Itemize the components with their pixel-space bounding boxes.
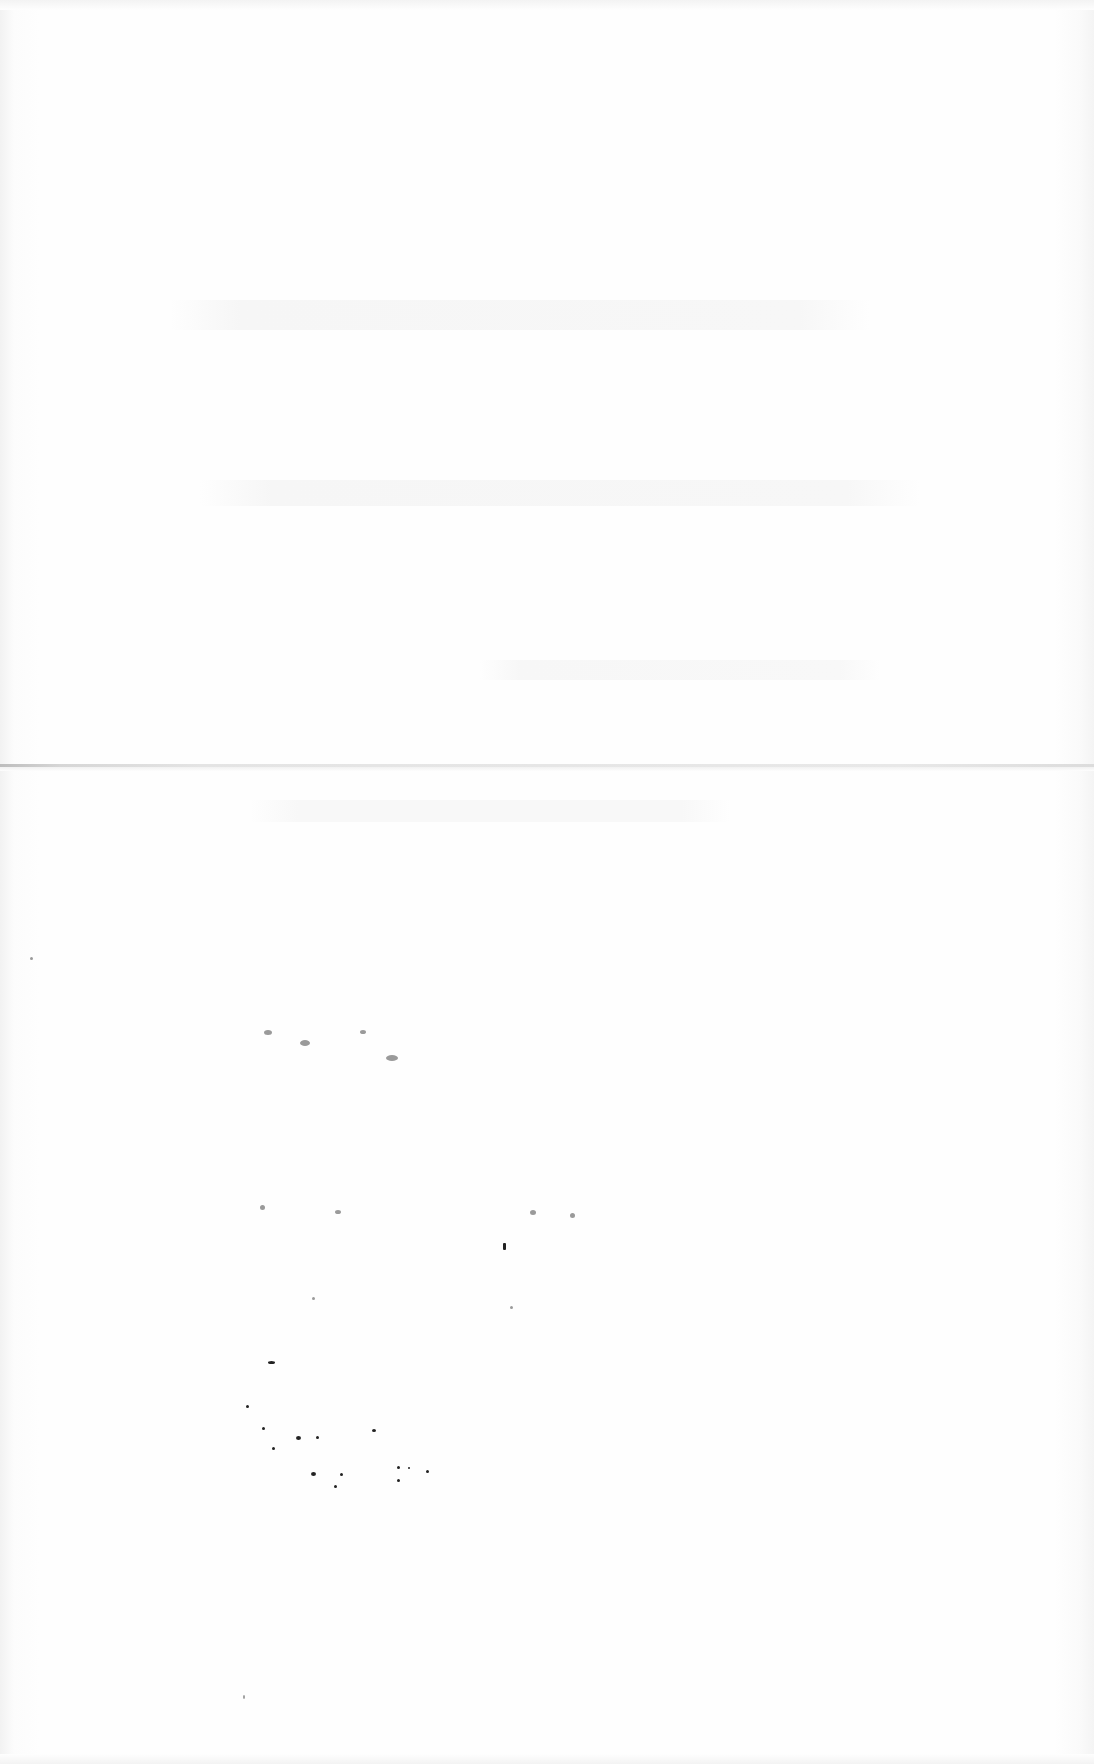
scan-speck [334, 1485, 337, 1488]
scan-speck [300, 1040, 310, 1046]
scan-speck [268, 1361, 275, 1364]
scan-speck [408, 1467, 410, 1469]
scan-speck [312, 1297, 315, 1300]
page-top-edge [0, 0, 1094, 10]
scan-speck [386, 1055, 398, 1061]
scan-speck [397, 1466, 400, 1469]
scan-speck [503, 1243, 506, 1250]
scan-speck [340, 1473, 343, 1476]
scan-speck [426, 1470, 429, 1473]
bleed-through-mark [250, 800, 730, 822]
scan-speck [311, 1472, 316, 1476]
scan-speck [243, 1695, 245, 1699]
bleed-through-mark [480, 660, 880, 680]
scan-speck [510, 1306, 513, 1309]
fold-shadow [0, 767, 1094, 771]
scan-speck [262, 1427, 265, 1430]
scan-speck [272, 1447, 275, 1450]
scan-speck [260, 1205, 265, 1210]
scan-speck [360, 1030, 366, 1034]
scan-speck [570, 1213, 575, 1218]
scan-speck [316, 1436, 319, 1439]
scan-speck [246, 1405, 249, 1408]
scan-speck [372, 1429, 376, 1432]
scan-speck [264, 1030, 272, 1035]
page-bottom-edge [0, 1754, 1094, 1764]
scan-speck [335, 1210, 341, 1214]
scanned-page [0, 0, 1094, 1764]
scan-speck [296, 1436, 301, 1440]
scan-speck [30, 957, 33, 960]
scan-speck [397, 1479, 400, 1482]
bleed-through-mark [200, 480, 920, 506]
scan-speck [530, 1210, 536, 1215]
bleed-through-mark [170, 300, 870, 330]
